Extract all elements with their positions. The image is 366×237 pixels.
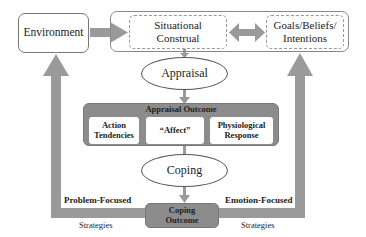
environment-node: Environment (18, 13, 89, 53)
physiological-response-label: Physiological Response (212, 121, 272, 140)
affect-box: “Affect” (146, 117, 204, 144)
arrow-appraisal-to-outcome (179, 90, 190, 104)
situational-construal-label: Situational Construal (143, 19, 213, 44)
goals-beliefs-intentions-node: Goals/Beliefs/ Intentions (266, 15, 344, 49)
arrow-coping-to-outcome (179, 187, 190, 203)
action-tendencies-label: Action Tendencies (90, 121, 138, 140)
problem-strategies-label: Strategies (79, 220, 113, 230)
emotion-strategies-label: Strategies (241, 220, 275, 230)
emotion-focused-label: Emotion-Focused (225, 195, 293, 205)
coping-node: Coping (141, 154, 228, 187)
coping-outcome-node: Coping Outcome (145, 203, 219, 228)
situational-construal-node: Situational Construal (129, 15, 227, 49)
environment-label: Environment (23, 26, 83, 39)
appraisal-node: Appraisal (141, 57, 228, 90)
appraisal-label: Appraisal (161, 67, 208, 81)
physiological-response-box: Physiological Response (210, 117, 273, 144)
action-tendencies-box: Action Tendencies (89, 117, 139, 144)
coping-outcome-label: Coping Outcome (160, 206, 204, 226)
coping-label: Coping (167, 164, 202, 178)
appraisal-outcome-node: Appraisal Outcome Action Tendencies “Aff… (83, 103, 279, 146)
affect-label: “Affect” (160, 126, 191, 135)
problem-focused-label: Problem-Focused (64, 195, 131, 205)
goals-beliefs-intentions-label: Goals/Beliefs/ Intentions (268, 19, 342, 44)
appraisal-outcome-title: Appraisal Outcome (84, 105, 278, 115)
